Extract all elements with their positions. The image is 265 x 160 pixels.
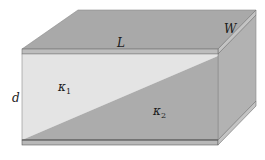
- capacitor-diagram: L W d κ1 κ2: [0, 0, 265, 160]
- kappa2-subscript: 2: [161, 111, 166, 120]
- width-label: W: [224, 22, 238, 36]
- length-label: L: [116, 36, 125, 50]
- kappa2-symbol: κ: [152, 104, 161, 118]
- kappa1-subscript: 1: [66, 87, 71, 96]
- bottom-plate-front-edge: [22, 140, 218, 145]
- top-plate-surface: [22, 10, 256, 49]
- separation-label: d: [12, 91, 20, 105]
- kappa1-symbol: κ: [57, 80, 66, 94]
